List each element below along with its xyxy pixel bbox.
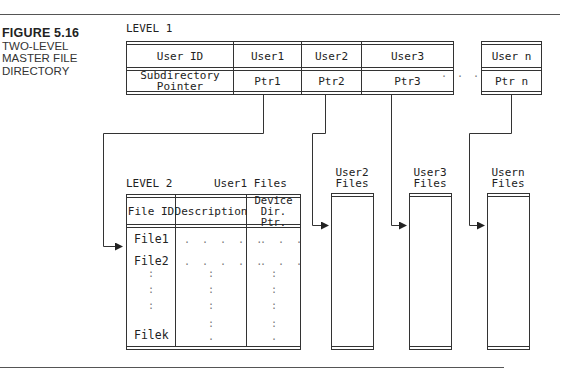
file2-device: . . . — [260, 256, 305, 267]
user3-files-title: User3 Files — [400, 165, 460, 191]
desc-vertical-ellipsis-4: : — [208, 318, 217, 329]
user2-files-line-2: Files — [335, 178, 368, 189]
fileid-vertical-ellipsis-3: : — [148, 300, 157, 311]
dev-vertical-ellipsis-1: : — [271, 268, 280, 279]
desc-vertical-ellipsis-3: : — [208, 300, 217, 311]
level1-header-user2: User2 — [302, 45, 361, 67]
filek-id: Filek — [134, 328, 169, 342]
level1-ptr2: Ptr2 — [302, 71, 361, 91]
file2-description: . . . . . — [184, 256, 265, 267]
usern-files-title: Usern Files — [478, 165, 538, 191]
level1-header-user3: User3 — [362, 45, 453, 67]
dev-vertical-ellipsis-2: : — [271, 284, 280, 295]
user3-files-line-2: Files — [413, 178, 446, 189]
col-description: Description — [176, 198, 246, 224]
filek-description: . — [208, 331, 217, 342]
level1-ptr3: Ptr3 — [362, 71, 453, 91]
pointer-label-line-2: Pointer — [157, 81, 203, 92]
level1-header-user1: User1 — [234, 45, 301, 67]
level1-pointer-label: Subdirectory Pointer — [127, 71, 233, 91]
desc-vertical-ellipsis-1: : — [208, 268, 217, 279]
device-line-2: Dir. Ptr. — [247, 206, 300, 228]
filek-device: . — [271, 331, 280, 342]
file1-id: File1 — [134, 232, 169, 246]
level1-ptrn: Ptr n — [482, 71, 541, 91]
level1-header-usern: User n — [482, 45, 541, 67]
level1-ptr1: Ptr1 — [234, 71, 301, 91]
dev-vertical-ellipsis-4: : — [271, 318, 280, 329]
level2-label: LEVEL 2 — [126, 177, 172, 190]
level1-ellipsis: . . . — [441, 68, 481, 79]
file1-device: . . . — [260, 234, 305, 245]
fileid-vertical-ellipsis-2: : — [148, 284, 157, 295]
col-device-dir-ptr: Device Dir. Ptr. — [247, 198, 300, 224]
file2-id: File2 — [134, 254, 169, 268]
col-file-id: File ID — [127, 198, 175, 224]
dev-vertical-ellipsis-3: : — [271, 300, 280, 311]
user2-files-title: User2 Files — [322, 165, 382, 191]
user1-files-title: User1 Files — [214, 177, 287, 190]
level1-header-userid: User ID — [127, 45, 233, 67]
desc-vertical-ellipsis-2: : — [208, 284, 217, 295]
device-line-1: Device — [255, 195, 293, 206]
file1-description: . . . . . — [184, 234, 265, 245]
fileid-vertical-ellipsis-1: : — [148, 268, 157, 279]
usern-files-line-2: Files — [491, 178, 524, 189]
